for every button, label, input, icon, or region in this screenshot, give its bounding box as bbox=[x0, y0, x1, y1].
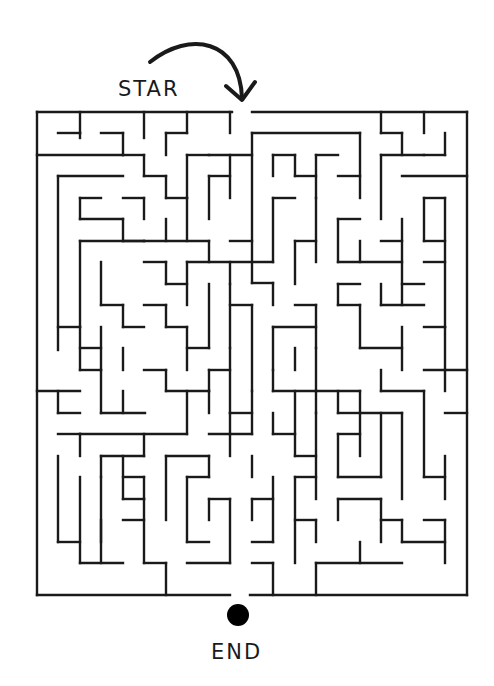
maze-walls bbox=[37, 112, 467, 595]
start-label: STAR bbox=[118, 77, 179, 101]
end-marker-dot bbox=[227, 604, 249, 626]
end-label: END bbox=[211, 640, 262, 664]
maze-board bbox=[0, 0, 494, 686]
